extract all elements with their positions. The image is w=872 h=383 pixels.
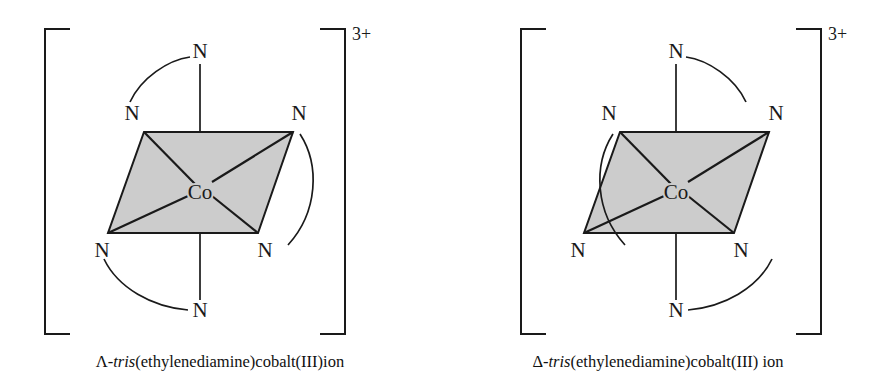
right-nitrogen-lower-left: N bbox=[570, 238, 585, 262]
right-nitrogen-upper-left: N bbox=[601, 101, 616, 125]
caption-delta: Δ-tris(ethylenediamine)cobalt(III) ion bbox=[434, 352, 872, 372]
right-nitrogen-apex: N bbox=[668, 39, 683, 63]
chemical-structure-figure: 3+ Co N N N N N bbox=[0, 0, 872, 383]
right-nitrogen-upper-right: N bbox=[768, 101, 783, 125]
caption-row: Λ-tris(ethylenediamine)cobalt(III)ion Δ-… bbox=[0, 352, 872, 372]
right-nitrogen-lower-right: N bbox=[733, 238, 748, 262]
right-cobalt-label: Co bbox=[664, 180, 689, 204]
caption-lambda: Λ-tris(ethylenediamine)cobalt(III)ion bbox=[0, 352, 434, 372]
caption-lambda-italic: tris bbox=[113, 352, 135, 371]
caption-lambda-prefix: Λ- bbox=[96, 352, 113, 371]
delta-isomer-structure: 3+ Co N N N N N N bbox=[0, 0, 872, 383]
caption-lambda-suffix: (ethylenediamine)cobalt(III)ion bbox=[135, 352, 344, 371]
right-nitrogen-bottom: N bbox=[668, 298, 683, 322]
caption-delta-suffix: (ethylenediamine)cobalt(III) ion bbox=[571, 352, 784, 371]
right-bracket-open bbox=[521, 29, 546, 334]
right-charge-label: 3+ bbox=[828, 24, 847, 44]
caption-delta-prefix: Δ- bbox=[532, 352, 548, 371]
caption-delta-italic: tris bbox=[549, 352, 571, 371]
right-bracket-close bbox=[796, 29, 821, 334]
